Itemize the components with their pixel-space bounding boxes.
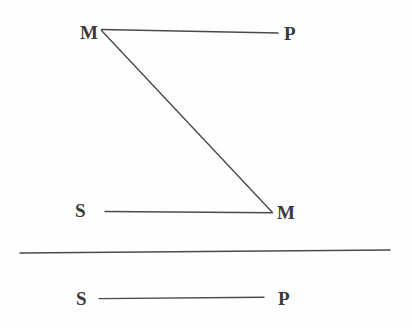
label-minor-premise-middle-term: M bbox=[277, 203, 295, 222]
inference-bar-line bbox=[20, 250, 390, 253]
label-minor-premise-subject-term: S bbox=[75, 201, 86, 220]
figure-canvas: M P S M S P bbox=[0, 0, 412, 328]
label-conclusion-subject-term: S bbox=[76, 289, 87, 308]
conclusion-line bbox=[99, 297, 264, 298]
minor-premise-line bbox=[105, 212, 273, 213]
major-premise-line bbox=[102, 30, 279, 34]
syllogism-diagram bbox=[0, 0, 412, 328]
label-major-premise-middle-term: M bbox=[80, 23, 98, 42]
label-major-premise-predicate-term: P bbox=[284, 24, 296, 43]
label-conclusion-predicate-term: P bbox=[278, 289, 290, 308]
middle-term-link-line bbox=[102, 31, 273, 213]
